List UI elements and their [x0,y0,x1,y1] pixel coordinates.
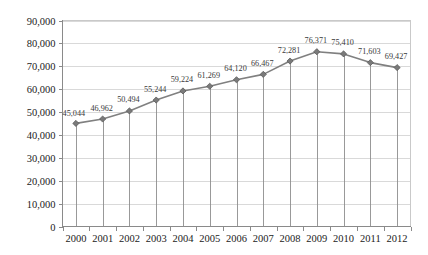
y-axis-tick-label: 0 [50,222,55,233]
data-point-value-label: 45,044 [63,109,86,118]
x-axis-tick-label: 2007 [253,233,274,244]
data-point-value-label: 61,269 [197,71,220,80]
x-axis-ticks-group [64,227,412,231]
data-point-value-label: 69,427 [385,52,408,61]
x-axis-tick-label: 2003 [146,233,167,244]
data-point-value-label: 46,962 [90,104,113,113]
y-axis-tick-label: 80,000 [27,38,56,49]
data-point-value-label: 71,603 [358,47,381,56]
x-axis-tick-label: 2005 [199,233,220,244]
data-point-value-label: 76,371 [305,36,328,45]
x-axis-tick-label: 2010 [333,233,354,244]
x-axis-tick-label: 2002 [119,233,140,244]
data-point-marker [260,71,266,77]
data-point-marker [367,60,373,66]
data-point-marker [340,51,346,57]
x-axis-tick-label: 2001 [92,233,113,244]
data-point-value-label: 75,410 [331,38,354,47]
series-markers-group [73,49,400,127]
x-axis-tick-label: 2011 [360,233,381,244]
data-point-value-label: 72,281 [278,46,301,55]
data-point-marker [73,120,79,126]
x-axis-tick-label: 2009 [306,233,327,244]
data-point-value-label: 66,467 [251,59,274,68]
data-point-marker [287,58,293,64]
y-axis-tick-label: 10,000 [27,199,56,210]
x-axis-tick-label: 2004 [172,233,194,244]
x-axis-tick-label: 2000 [65,233,86,244]
data-point-marker [207,83,213,89]
data-point-marker [233,77,239,83]
x-axis-tick-labels-group: 2000200120022003200420052006200720082009… [65,233,407,244]
x-axis-tick-label: 2012 [387,233,408,244]
data-point-marker [126,108,132,114]
data-point-marker [314,49,320,55]
y-axis-tick-label: 40,000 [27,130,56,141]
data-point-marker [180,88,186,94]
data-point-value-label: 64,120 [224,64,247,73]
data-point-marker [394,64,400,70]
x-axis-tick-label: 2006 [226,233,247,244]
data-labels-group: 45,04446,96250,49455,24459,22461,26964,1… [63,36,408,118]
y-axis-tick-label: 30,000 [27,153,56,164]
y-axis-tick-label: 20,000 [27,176,56,187]
y-axis-tick-label: 50,000 [27,107,56,118]
data-point-value-label: 50,494 [117,95,140,104]
data-point-value-label: 55,244 [144,85,167,94]
data-point-value-label: 59,224 [171,75,194,84]
chart-canvas: 010,00020,00030,00040,00050,00060,00070,… [0,0,428,255]
y-axis-tick-label: 90,000 [27,16,56,27]
y-axis-tick-label: 60,000 [27,84,56,95]
y-axis-tick-labels-group: 010,00020,00030,00040,00050,00060,00070,… [27,16,56,233]
line-chart: 010,00020,00030,00040,00050,00060,00070,… [0,0,428,255]
y-axis-tick-label: 70,000 [27,61,56,72]
data-point-marker [153,97,159,103]
data-point-marker [100,116,106,122]
x-axis-tick-label: 2008 [280,233,301,244]
